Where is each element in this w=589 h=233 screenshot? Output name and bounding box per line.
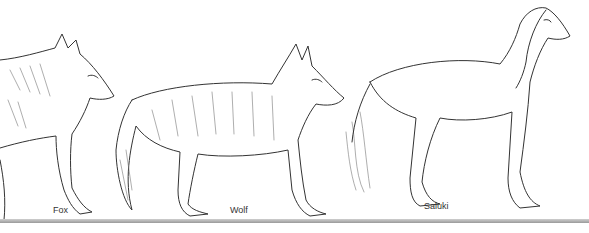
label-fox: Fox <box>53 205 68 215</box>
bottom-rule <box>0 219 589 223</box>
fox-drawing <box>0 30 120 220</box>
label-saluki: Saluki <box>424 201 449 211</box>
saluki-drawing <box>340 2 575 217</box>
canine-comparison-illustration: Fox Wolf Saluki <box>0 0 589 233</box>
wolf-drawing <box>112 40 348 220</box>
label-wolf: Wolf <box>230 205 248 215</box>
